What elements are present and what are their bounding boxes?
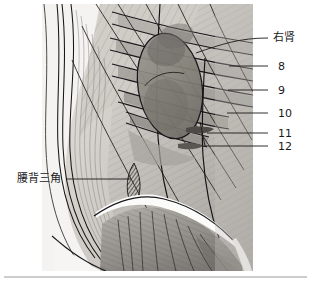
label-rib-9: 9 (278, 85, 285, 96)
label-lumbar-triangle: 腰背三角 (17, 173, 61, 184)
label-rib-12: 12 (278, 141, 292, 152)
label-rib-8: 8 (278, 61, 285, 72)
label-rib-10: 10 (278, 108, 292, 119)
anatomy-figure (0, 0, 311, 289)
right-margin-shade (215, 4, 253, 271)
label-right-kidney: 右肾 (273, 32, 295, 43)
label-rib-11: 11 (278, 128, 292, 139)
illustration-plate (42, 4, 253, 271)
